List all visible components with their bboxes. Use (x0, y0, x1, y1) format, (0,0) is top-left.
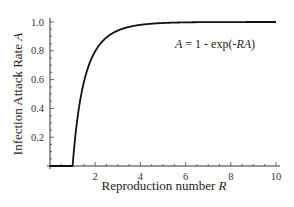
x-tick-label: 2 (93, 171, 98, 182)
y-tick-label: 0.6 (31, 74, 44, 85)
y-tick-label: 1.0 (31, 17, 44, 28)
x-tick-label: 10 (271, 171, 282, 182)
y-tick-label: 0.4 (31, 103, 45, 114)
y-axis-title: Infection Attack Rate A (10, 33, 25, 155)
attack-rate-chart: 2468100.20.40.60.81.0 A = 1 - exp(-RA) R… (0, 0, 294, 207)
x-tick-label: 8 (228, 171, 233, 182)
x-axis-title: Reproduction number R (102, 178, 227, 193)
equation-annotation: A = 1 - exp(-RA) (174, 37, 255, 51)
y-tick-label: 0.8 (31, 45, 44, 56)
y-tick-label: 0.2 (31, 132, 44, 143)
